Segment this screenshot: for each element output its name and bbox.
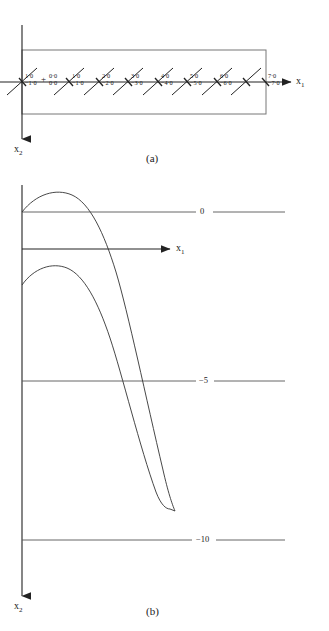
- figure-svg: [0, 0, 329, 631]
- panel-a-mark-7-upper: 6·0: [220, 72, 232, 79]
- panel-a-mark-4: 3·0 −3·0: [131, 72, 143, 86]
- panel-a-mark-6-upper: 5·0: [190, 72, 202, 79]
- panel-b-caption: (b): [146, 605, 159, 617]
- panel-a-mark-3-upper: 2·0: [102, 72, 114, 79]
- figure-container: x1 x2 + 1·0 −1·0 0·0 0·0 1·0 −1·0 2·0 −2…: [0, 0, 329, 631]
- panel-b-gridlabel-minus5: −5: [199, 375, 208, 385]
- panel-a-mark-8: 7·0 −7·0: [268, 72, 280, 86]
- panel-a-plus-marker: +: [41, 74, 46, 84]
- panel-b-x2-axis-label: x2: [14, 600, 23, 614]
- panel-a-mark-2-upper: 1·0: [72, 72, 84, 79]
- panel-a-mark-0: 1·0 −1·0: [25, 72, 37, 86]
- panel-a-mark-7: 6·0 −6·0: [220, 72, 232, 86]
- panel-a-mark-5-lower: −4·0: [161, 79, 173, 86]
- panel-b-graphics: [22, 185, 285, 596]
- panel-a-mark-2-lower: −1·0: [72, 79, 84, 86]
- panel-b-x1-axis-label: x1: [176, 242, 185, 256]
- panel-a-mark-3-lower: −2·0: [102, 79, 114, 86]
- panel-a-x2-axis-label: x2: [14, 143, 23, 157]
- panel-a-mark-4-upper: 3·0: [131, 72, 143, 79]
- panel-a-mark-5: 4·0 −4·0: [161, 72, 173, 86]
- panel-a-mark-1-upper: 0·0: [49, 72, 57, 79]
- panel-a-mark-1: 0·0 0·0: [49, 72, 57, 86]
- panel-a-caption: (a): [146, 152, 158, 164]
- panel-a-mark-1-lower: 0·0: [49, 79, 57, 86]
- panel-a-mark-6: 5·0 −5·0: [190, 72, 202, 86]
- panel-a-mark-5-upper: 4·0: [161, 72, 173, 79]
- panel-b-curve-outer: [22, 192, 175, 511]
- panel-a-mark-2: 1·0 −1·0: [72, 72, 84, 86]
- panel-a-mark-3: 2·0 −2·0: [102, 72, 114, 86]
- panel-a-mark-6-lower: −5·0: [190, 79, 202, 86]
- panel-a-mark-0-upper: 1·0: [25, 72, 37, 79]
- panel-a-mark-7-lower: −6·0: [220, 79, 232, 86]
- panel-a-mark-0-lower: −1·0: [25, 79, 37, 86]
- panel-a-mark-8-upper: 7·0: [268, 72, 280, 79]
- panel-a-mark-8-lower: −7·0: [268, 79, 280, 86]
- panel-b-gridlabel-minus10: −10: [196, 534, 209, 544]
- panel-b-curve-inner: [22, 266, 175, 511]
- panel-a-x1-axis-label: x1: [296, 75, 305, 89]
- panel-b-gridlabel-0: 0: [200, 206, 204, 216]
- panel-a-mark-4-lower: −3·0: [131, 79, 143, 86]
